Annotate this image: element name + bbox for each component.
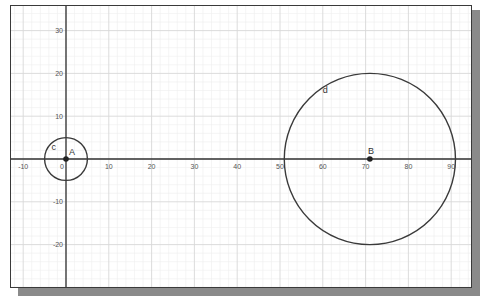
point-a[interactable] — [63, 156, 69, 162]
plot-canvas[interactable]: -100102030405060708090 302010-10-20 A B … — [11, 6, 472, 288]
x-tick-label: 60 — [319, 163, 327, 170]
axes — [11, 6, 472, 288]
x-tick-label: -10 — [18, 163, 28, 170]
x-tick-labels: -100102030405060708090 — [18, 163, 455, 170]
x-tick-label: 50 — [276, 163, 284, 170]
y-tick-label: 10 — [55, 113, 63, 120]
frame-shadow-bottom — [18, 288, 480, 296]
y-tick-label: 30 — [55, 27, 63, 34]
frame-shadow-right — [472, 10, 480, 296]
y-tick-label: 20 — [55, 70, 63, 77]
x-tick-label: 90 — [447, 163, 455, 170]
minor-grid — [11, 6, 472, 288]
point-b[interactable] — [367, 156, 373, 162]
x-tick-label: 30 — [191, 163, 199, 170]
point-a-label: A — [69, 147, 75, 157]
circle-d-label: d — [323, 85, 328, 95]
x-tick-label: 20 — [148, 163, 156, 170]
x-tick-label: 0 — [60, 163, 64, 170]
major-grid — [11, 6, 472, 288]
circle-c-label: c — [51, 142, 56, 152]
x-tick-label: 10 — [105, 163, 113, 170]
point-b-label: B — [368, 146, 374, 156]
y-tick-label: -10 — [53, 198, 63, 205]
x-tick-label: 40 — [233, 163, 241, 170]
x-tick-label: 80 — [405, 163, 413, 170]
y-tick-label: -20 — [53, 241, 63, 248]
graphics-view[interactable]: -100102030405060708090 302010-10-20 A B … — [10, 5, 472, 288]
x-tick-label: 70 — [362, 163, 370, 170]
